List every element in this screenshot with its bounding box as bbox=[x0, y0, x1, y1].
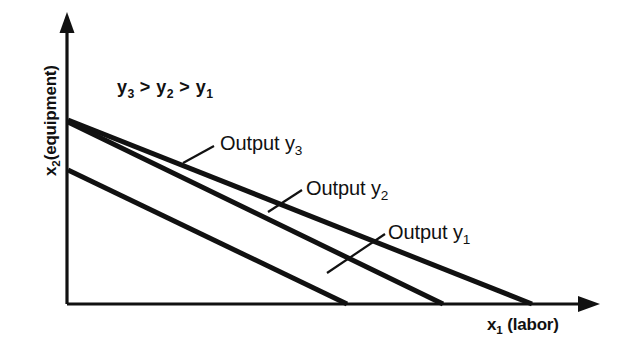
ordering-gt-second: > bbox=[174, 77, 196, 97]
curve-label-y2-subscript: 2 bbox=[381, 188, 389, 203]
curve-label-y3-prefix: Output bbox=[220, 132, 285, 154]
callout-leader-y3 bbox=[183, 146, 214, 163]
x-axis-arrowhead bbox=[578, 296, 600, 312]
ordering-y2-subscript: 2 bbox=[167, 87, 174, 101]
y-axis-label: x2(equipment) bbox=[42, 65, 63, 176]
x-axis-label: x1 (labor) bbox=[487, 316, 559, 337]
y-axis-label-unit: (equipment) bbox=[41, 65, 60, 160]
y-axis-arrowhead bbox=[60, 12, 75, 33]
ordering-y2: y bbox=[156, 77, 167, 97]
y-axis-label-var: x bbox=[41, 167, 60, 176]
curve-label-y2-prefix: Output bbox=[306, 177, 371, 199]
x-axis-label-unit: (labor) bbox=[503, 315, 559, 334]
ordering-y1-subscript: 1 bbox=[206, 87, 213, 101]
ordering-gt-first: > bbox=[134, 77, 156, 97]
output-ordering-annotation: y3 > y2 > y1 bbox=[117, 78, 213, 100]
curve-label-y2-var: y bbox=[371, 177, 381, 199]
ordering-y1: y bbox=[196, 77, 207, 97]
x-axis-label-var: x bbox=[487, 315, 496, 334]
curve-label-y1-var: y bbox=[453, 221, 463, 243]
curve-label-y2: Output y2 bbox=[306, 178, 388, 203]
y-axis-label-subscript: 2 bbox=[50, 160, 62, 166]
curve-label-y3: Output y3 bbox=[220, 133, 302, 158]
curve-label-y3-subscript: 3 bbox=[295, 143, 303, 158]
curve-label-y1: Output y1 bbox=[388, 222, 470, 247]
curve-label-y1-subscript: 1 bbox=[463, 232, 471, 247]
curve-label-y1-prefix: Output bbox=[388, 221, 453, 243]
curve-label-y3-var: y bbox=[285, 132, 295, 154]
ordering-y3: y bbox=[117, 77, 128, 97]
isoquant-figure: x2(equipment) x1 (labor) y3 > y2 > y1 Ou… bbox=[0, 0, 632, 353]
